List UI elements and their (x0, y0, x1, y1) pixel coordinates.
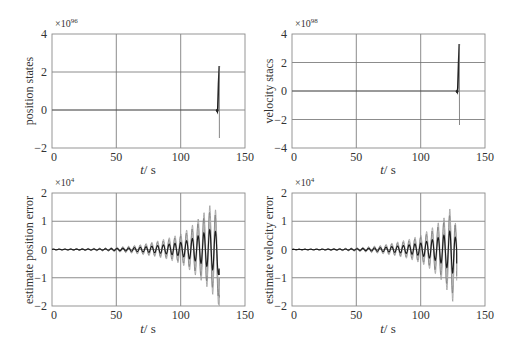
svg-text:4: 4 (281, 27, 287, 41)
error-trace (292, 216, 457, 294)
svg-text:50: 50 (350, 150, 362, 164)
y-tick-labels: 4 2 0 −2 (34, 27, 47, 155)
x-axis-label: t/ s (380, 162, 396, 177)
data-series (52, 206, 219, 306)
svg-text:1: 1 (281, 214, 287, 228)
svg-text:−2: −2 (34, 299, 47, 313)
grid (52, 34, 245, 148)
svg-text:0: 0 (41, 243, 47, 257)
svg-text:50: 50 (350, 308, 362, 322)
svg-text:0: 0 (51, 150, 57, 164)
svg-text:50: 50 (110, 308, 122, 322)
svg-text:2: 2 (41, 186, 47, 200)
y-axis-label: estimate position error (22, 196, 36, 304)
error-trace (292, 209, 457, 301)
y-axis-label: velocity stacs (262, 58, 276, 123)
y-tick-labels: 2 1 0 −1 −2 (34, 186, 47, 313)
svg-text:100: 100 (412, 150, 430, 164)
svg-text:0: 0 (41, 103, 47, 117)
svg-text:0: 0 (291, 150, 297, 164)
panel-velocity-states: ×1098 4 2 0 −2 −4 0 50 100 150 t/ s velo… (262, 17, 494, 177)
svg-text:0: 0 (51, 308, 57, 322)
y-multiplier: ×1096 (55, 17, 78, 29)
svg-text:−2: −2 (274, 113, 287, 127)
y-multiplier: ×1098 (295, 17, 318, 29)
svg-text:100: 100 (172, 308, 190, 322)
svg-text:0: 0 (281, 84, 287, 98)
y-multiplier: ×104 (295, 176, 315, 188)
figure-canvas: ×1096 4 2 0 −2 0 50 100 150 t/ s positio… (0, 0, 514, 345)
y-tick-labels: 4 2 0 −2 −4 (274, 27, 287, 155)
y-multiplier: ×104 (55, 176, 75, 188)
y-axis-label: estimate velocity error (262, 196, 276, 304)
svg-text:0: 0 (291, 308, 297, 322)
x-axis-label: t/ s (140, 321, 156, 336)
svg-text:1: 1 (41, 214, 47, 228)
svg-text:−4: −4 (274, 141, 287, 155)
svg-text:150: 150 (476, 308, 494, 322)
x-axis-label: t/ s (380, 321, 396, 336)
svg-text:4: 4 (41, 27, 47, 41)
svg-text:150: 150 (236, 308, 254, 322)
svg-text:150: 150 (476, 150, 494, 164)
svg-text:−2: −2 (34, 141, 47, 155)
svg-text:−2: −2 (274, 299, 287, 313)
svg-text:2: 2 (281, 186, 287, 200)
svg-text:50: 50 (110, 150, 122, 164)
data-series (52, 66, 219, 138)
x-tick-labels: 0 50 100 150 (291, 308, 494, 322)
x-axis-label: t/ s (140, 162, 156, 177)
y-tick-labels: 2 1 0 −1 −2 (274, 186, 287, 313)
svg-text:0: 0 (281, 243, 287, 257)
svg-text:100: 100 (412, 308, 430, 322)
data-series (292, 44, 460, 125)
svg-text:2: 2 (281, 56, 287, 70)
panel-position-states: ×1096 4 2 0 −2 0 50 100 150 t/ s positio… (22, 17, 254, 177)
data-series (292, 209, 457, 301)
svg-text:−1: −1 (274, 271, 287, 285)
panel-estimate-velocity-error: ×104 2 1 0 −1 −2 0 50 100 150 t/ s estim… (262, 176, 494, 336)
svg-text:−1: −1 (34, 271, 47, 285)
axes-box (52, 34, 245, 148)
svg-text:100: 100 (172, 150, 190, 164)
panel-estimate-position-error: ×104 2 1 0 −1 −2 0 50 100 150 t/ s estim… (22, 176, 254, 336)
svg-text:2: 2 (41, 65, 47, 79)
y-axis-label: position states (22, 57, 36, 126)
svg-text:150: 150 (236, 150, 254, 164)
x-tick-labels: 0 50 100 150 (51, 308, 254, 322)
